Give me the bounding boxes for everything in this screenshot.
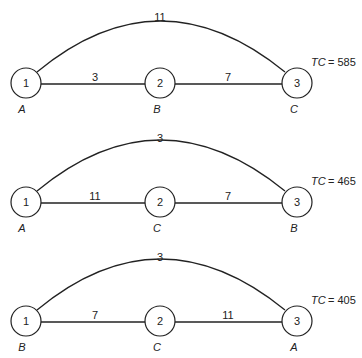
layout-2: 1 2 3 A C B 3 11 7 TC = 465 (11, 132, 356, 234)
edge-1-3-weight: 3 (157, 251, 163, 263)
dept-label-3: A (289, 341, 297, 353)
node-1-number: 1 (23, 77, 29, 89)
dept-label-2: C (153, 341, 161, 353)
dept-label-2: B (153, 103, 160, 115)
node-2-number: 2 (157, 315, 163, 327)
total-cost-value: = 465 (328, 175, 356, 187)
layout-diagram: 1 2 3 A B C 11 3 7 TC = 585 1 2 3 A C B … (0, 0, 362, 358)
total-cost-value: = 585 (328, 56, 356, 68)
node-3-number: 3 (294, 196, 300, 208)
total-cost-value: = 405 (328, 294, 356, 306)
edge-1-2-weight: 7 (92, 309, 98, 321)
total-cost-label: TC (311, 294, 326, 306)
edge-2-3-weight: 7 (225, 71, 231, 83)
node-3-number: 3 (294, 77, 300, 89)
node-3-number: 3 (294, 315, 300, 327)
node-1-number: 1 (23, 315, 29, 327)
dept-label-3: B (290, 222, 297, 234)
edge-2-3-weight: 11 (222, 309, 233, 321)
edge-1-3 (37, 140, 285, 191)
total-cost-label: TC (311, 56, 326, 68)
node-1-number: 1 (23, 196, 29, 208)
dept-label-2: C (153, 222, 161, 234)
edge-1-3 (37, 259, 285, 310)
edge-1-2-weight: 3 (92, 71, 98, 83)
edge-1-2-weight: 11 (89, 190, 100, 202)
total-cost-label: TC (311, 175, 326, 187)
dept-label-1: A (17, 103, 25, 115)
node-2-number: 2 (157, 196, 163, 208)
layout-3: 1 2 3 B C A 3 7 11 TC = 405 (11, 251, 356, 353)
edge-1-3-weight: 3 (157, 132, 163, 144)
edge-1-3-weight: 11 (154, 11, 165, 23)
dept-label-3: C (290, 103, 298, 115)
edge-2-3-weight: 7 (225, 190, 231, 202)
edge-1-3 (37, 21, 285, 72)
layout-1: 1 2 3 A B C 11 3 7 TC = 585 (11, 11, 356, 115)
dept-label-1: B (18, 341, 25, 353)
dept-label-1: A (17, 222, 25, 234)
node-2-number: 2 (157, 77, 163, 89)
